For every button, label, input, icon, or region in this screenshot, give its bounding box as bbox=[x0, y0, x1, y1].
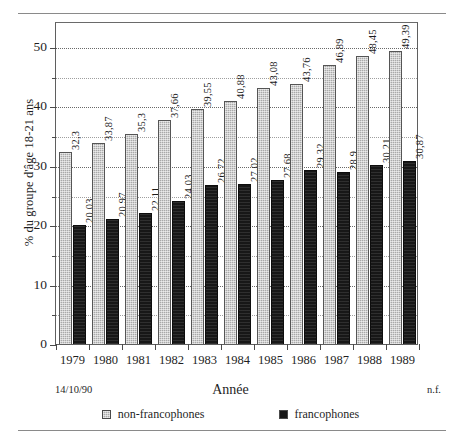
legend-item-non-francophones[interactable]: non-francophones bbox=[102, 407, 205, 422]
y-axis-tick-label: 30 bbox=[34, 158, 48, 174]
x-axis-label-1982: 1982 bbox=[159, 353, 184, 368]
bar-value-label: 49,39 bbox=[401, 24, 412, 49]
x-axis-tick bbox=[155, 344, 156, 350]
x-axis-tick bbox=[89, 344, 90, 350]
bar-francophones-1986 bbox=[304, 170, 317, 344]
x-axis-tick bbox=[353, 344, 354, 350]
bar-non-francophones-1982 bbox=[158, 120, 171, 344]
x-axis-label-1981: 1981 bbox=[126, 353, 151, 368]
x-axis-label-1989: 1989 bbox=[390, 353, 415, 368]
x-axis-label-1980: 1980 bbox=[93, 353, 118, 368]
x-axis-tick bbox=[188, 344, 189, 350]
legend-item-francophones[interactable]: francophones bbox=[279, 407, 360, 422]
y-axis-tick-label: 40 bbox=[34, 99, 48, 115]
bar-group: 39,5526,72 bbox=[188, 23, 221, 344]
x-axis-tick bbox=[386, 344, 387, 350]
bar-non-francophones-1981 bbox=[125, 134, 138, 344]
bar-non-francophones-1979 bbox=[59, 152, 72, 344]
bar-francophones-1980 bbox=[106, 219, 119, 344]
plot-area: 01020304050 32,320,0333,8720,9735,322,11… bbox=[55, 22, 418, 345]
y-axis-tick-label: 0 bbox=[40, 336, 47, 352]
x-axis-label-1979: 1979 bbox=[60, 353, 85, 368]
bar-value-label: 33,87 bbox=[104, 116, 115, 141]
bar-value-label: 43,76 bbox=[302, 57, 313, 82]
plot-inner-surface: 01020304050 32,320,0333,8720,9735,322,11… bbox=[56, 23, 417, 344]
y-axis-tick-label: 20 bbox=[34, 218, 48, 234]
x-axis-label-1986: 1986 bbox=[291, 353, 316, 368]
bar-value-label: 30,87 bbox=[415, 134, 426, 159]
page-bottom-rule bbox=[18, 430, 446, 431]
bar-francophones-1983 bbox=[205, 185, 218, 344]
x-axis-tick bbox=[320, 344, 321, 350]
bar-non-francophones-1986 bbox=[290, 84, 303, 344]
date-note: 14/10/90 bbox=[55, 384, 92, 395]
legend-swatch-icon bbox=[102, 410, 111, 419]
source-code-note: n.f. bbox=[427, 384, 441, 395]
bar-group: 35,322,11 bbox=[122, 23, 155, 344]
bar-non-francophones-1984 bbox=[224, 101, 237, 344]
x-axis-label-1983: 1983 bbox=[192, 353, 217, 368]
chart-legend: non-francophonesfrancophones bbox=[0, 407, 461, 422]
y-axis-tick-label: 10 bbox=[34, 277, 48, 293]
legend-swatch-icon bbox=[279, 410, 288, 419]
bar-non-francophones-1987 bbox=[323, 65, 336, 344]
bar-value-label: 37,66 bbox=[170, 94, 181, 119]
bar-non-francophones-1988 bbox=[356, 56, 369, 344]
bar-non-francophones-1985 bbox=[257, 88, 270, 344]
x-axis-label-1987: 1987 bbox=[324, 353, 349, 368]
x-axis-label-1985: 1985 bbox=[258, 353, 283, 368]
y-axis-tick-label: 50 bbox=[34, 39, 48, 55]
bar-group: 32,320,03 bbox=[56, 23, 89, 344]
x-axis-tick bbox=[221, 344, 222, 350]
bar-francophones-1987 bbox=[337, 172, 350, 344]
bar-francophones-1985 bbox=[271, 180, 284, 344]
bar-value-label: 39,55 bbox=[203, 82, 214, 107]
bar-non-francophones-1980 bbox=[92, 143, 105, 344]
bar-value-label: 46,89 bbox=[335, 39, 346, 64]
bar-group: 33,8720,97 bbox=[89, 23, 122, 344]
bar-francophones-1984 bbox=[238, 184, 251, 344]
bar-group: 43,7629,32 bbox=[287, 23, 320, 344]
x-axis-tick bbox=[287, 344, 288, 350]
bar-francophones-1989 bbox=[403, 161, 416, 344]
bar-value-label: 43,08 bbox=[269, 61, 280, 86]
legend-label: non-francophones bbox=[118, 407, 205, 422]
x-axis-tick bbox=[254, 344, 255, 350]
x-axis-label-1984: 1984 bbox=[225, 353, 250, 368]
x-axis-label-1988: 1988 bbox=[357, 353, 382, 368]
bar-value-label: 32,3 bbox=[71, 131, 82, 150]
bar-value-label: 48,45 bbox=[368, 30, 379, 55]
bar-francophones-1981 bbox=[139, 213, 152, 344]
bar-chart-figure: % du groupe d'âge 18-21 ans 01020304050 … bbox=[0, 0, 461, 439]
x-axis-tick bbox=[56, 344, 57, 350]
bar-group: 40,8827,02 bbox=[221, 23, 254, 344]
bar-value-label: 35,3 bbox=[137, 113, 148, 132]
bar-group: 43,0827,68 bbox=[254, 23, 287, 344]
x-axis-tick bbox=[122, 344, 123, 350]
bar-francophones-1982 bbox=[172, 201, 185, 344]
legend-label: francophones bbox=[295, 407, 360, 422]
bar-francophones-1988 bbox=[370, 165, 383, 344]
bar-group: 37,6624,03 bbox=[155, 23, 188, 344]
bar-value-label: 40,88 bbox=[236, 75, 247, 100]
bar-group: 48,4530,21 bbox=[353, 23, 386, 344]
bar-non-francophones-1989 bbox=[389, 51, 402, 344]
bar-group: 49,3930,87 bbox=[386, 23, 419, 344]
bar-group: 46,8928,9 bbox=[320, 23, 353, 344]
bar-francophones-1979 bbox=[73, 225, 86, 344]
x-axis-tick bbox=[419, 344, 420, 350]
bar-non-francophones-1983 bbox=[191, 109, 204, 344]
